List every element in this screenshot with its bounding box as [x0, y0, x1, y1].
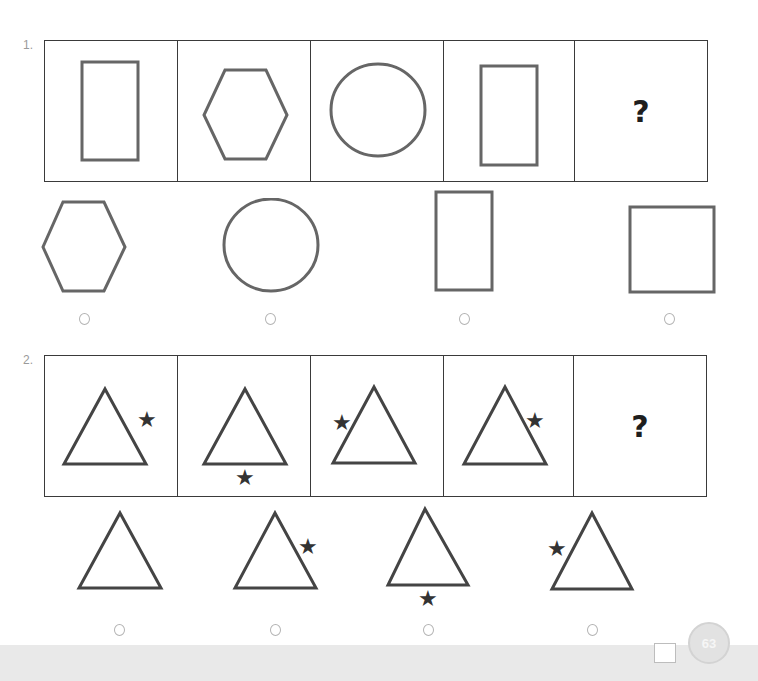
q1-cell-2	[178, 41, 311, 181]
hexagon-shape	[178, 41, 311, 181]
triangle-with-star-right: ★	[45, 356, 178, 496]
triangle-with-star-below: ★	[178, 356, 311, 496]
star-icon: ★	[298, 534, 318, 559]
q2-cell-4: ★	[444, 356, 574, 496]
question-2-sequence: ★ ★ ★ ★ ?	[44, 355, 707, 497]
page-footer-band	[0, 645, 758, 681]
q2-cell-1: ★	[45, 356, 178, 496]
q2-option-d-triangle-star-left[interactable]: ★	[545, 508, 637, 594]
q1-option-c-radio[interactable]	[459, 313, 470, 325]
star-icon: ★	[547, 536, 567, 561]
rectangle-shape	[444, 41, 575, 181]
q1-option-a-hexagon[interactable]	[40, 198, 132, 294]
q1-cell-4	[444, 41, 575, 181]
completion-checkbox[interactable]	[654, 643, 676, 663]
q2-option-c-radio[interactable]	[423, 624, 434, 636]
q1-option-c-rectangle[interactable]	[432, 188, 496, 294]
star-icon: ★	[418, 586, 438, 610]
q2-option-d-radio[interactable]	[587, 624, 598, 636]
q2-cell-unknown: ?	[574, 356, 706, 496]
question-1-sequence: ?	[44, 40, 708, 182]
q1-option-a-radio[interactable]	[79, 313, 90, 325]
question-mark: ?	[575, 94, 707, 129]
q1-cell-3	[311, 41, 444, 181]
triangle-with-star-left: ★	[311, 356, 444, 496]
star-icon: ★	[235, 465, 255, 490]
q2-cell-3: ★	[311, 356, 444, 496]
star-icon: ★	[525, 408, 545, 433]
q1-cell-unknown: ?	[575, 41, 707, 181]
q2-option-c-triangle-star-below[interactable]: ★	[382, 504, 478, 610]
page-number-badge: 63	[688, 622, 730, 664]
circle-shape	[311, 41, 444, 181]
triangle-with-star-right: ★	[444, 356, 574, 496]
q1-option-b-circle[interactable]	[220, 198, 322, 294]
q1-option-d-square[interactable]	[626, 203, 718, 295]
question-1-number: 1.	[23, 38, 33, 52]
q1-option-d-radio[interactable]	[664, 313, 675, 325]
question-2-number: 2.	[23, 353, 33, 367]
star-icon: ★	[137, 407, 157, 432]
rectangle-shape	[45, 41, 178, 181]
q2-cell-2: ★	[178, 356, 311, 496]
q1-cell-1	[45, 41, 178, 181]
q2-option-b-triangle-star-right[interactable]: ★	[230, 508, 330, 594]
q1-option-b-radio[interactable]	[265, 313, 276, 325]
q2-option-a-triangle-no-star[interactable]	[74, 508, 168, 594]
star-icon: ★	[332, 410, 352, 435]
q2-option-b-radio[interactable]	[270, 624, 281, 636]
q2-option-a-radio[interactable]	[114, 624, 125, 636]
question-mark: ?	[574, 409, 706, 444]
